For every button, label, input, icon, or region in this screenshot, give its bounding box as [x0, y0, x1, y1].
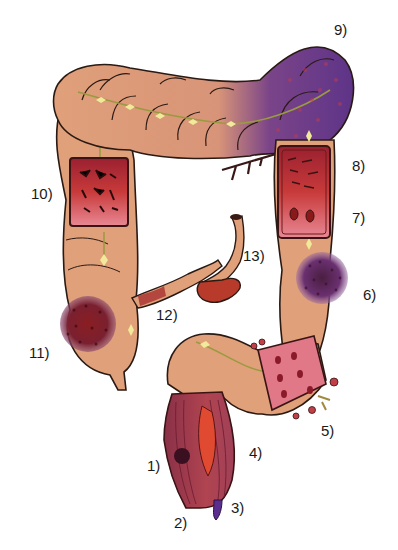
label-7: 7) — [352, 210, 365, 225]
label-4: 4) — [249, 445, 262, 460]
label-11: 11) — [29, 345, 50, 360]
meckel-diverticulum — [197, 214, 244, 302]
tumor-11 — [60, 296, 116, 352]
rectum-window — [164, 392, 234, 520]
label-9: 9) — [334, 22, 347, 37]
label-12: 12) — [156, 307, 178, 322]
label-10: 10) — [31, 186, 53, 201]
rectal-tumor — [174, 448, 190, 464]
label-8: 8) — [352, 158, 365, 173]
label-2: 2) — [174, 515, 187, 530]
label-5: 5) — [321, 423, 334, 438]
colon-pathology-diagram — [0, 0, 398, 550]
ascending-mucosa-window — [70, 158, 128, 226]
descending-mucosa-window — [278, 146, 330, 238]
label-6: 6) — [363, 287, 376, 302]
label-13: 13) — [243, 248, 265, 263]
label-3: 3) — [231, 500, 244, 515]
label-1: 1) — [147, 458, 160, 473]
